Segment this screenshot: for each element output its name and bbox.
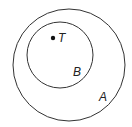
circle-b-label: B [73, 65, 81, 79]
circle-a [13, 9, 125, 121]
circle-a-label: A [98, 90, 107, 104]
venn-diagram: T B A [0, 0, 132, 127]
point-t-dot [51, 36, 55, 40]
point-t-label: T [58, 31, 67, 45]
